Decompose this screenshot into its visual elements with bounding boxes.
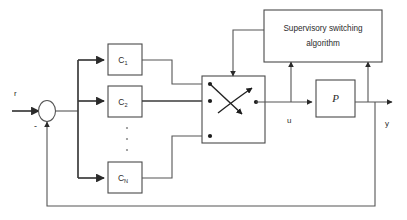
summing-junction [39, 101, 56, 122]
controller-c2-block[interactable]: C2 [108, 86, 142, 117]
reference-input-group: r [12, 89, 39, 111]
vertical-dots-ellipsis [126, 127, 128, 151]
plant-block[interactable]: P [316, 80, 355, 117]
switch-block[interactable] [202, 76, 265, 143]
supervisor-label-line2: algorithm [306, 39, 340, 48]
block-diagram-svg: r - C1 C2 [0, 0, 407, 220]
switch-input-terminal-2 [208, 99, 212, 103]
controller-cn-block[interactable]: CN [108, 162, 142, 193]
controller-c1-block[interactable]: C1 [108, 44, 142, 75]
plant-output-group: y [355, 62, 392, 128]
switch-input-terminal-3 [208, 134, 212, 138]
controller-input-bus [78, 60, 104, 178]
switching-command-path [233, 30, 264, 76]
supervisor-label-line1: Supervisory switching [283, 24, 363, 33]
supervisor-box[interactable] [264, 10, 382, 62]
control-signal-label: u [287, 116, 291, 125]
supervisory-switching-algorithm-block[interactable]: Supervisory switching algorithm [264, 10, 382, 62]
block-diagram-canvas: r - C1 C2 [0, 0, 407, 220]
plant-label: P [331, 92, 339, 104]
controller-output-routing [142, 60, 202, 178]
switching-command-wire [233, 30, 264, 76]
c1-output-wire [142, 60, 202, 84]
summing-junction-group: - [34, 101, 78, 132]
output-signal-label: y [385, 119, 389, 128]
cn-output-wire [142, 136, 202, 178]
reference-label: r [14, 89, 17, 98]
summing-minus-sign: - [34, 121, 37, 131]
